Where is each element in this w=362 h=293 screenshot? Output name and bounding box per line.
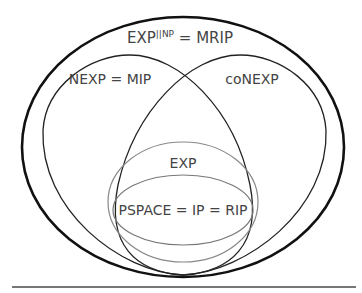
nexp-set-label: NEXP = MIP [69, 71, 152, 87]
pspace-set-label: PSPACE = IP = RIP [119, 202, 248, 218]
outer-set-label: EXP||NP = MRIP [127, 29, 233, 47]
horizontal-rule [12, 286, 356, 288]
conexp-set-label: coNEXP [225, 71, 279, 87]
exp-set-label: EXP [170, 155, 197, 171]
outer-set-boundary [22, 17, 344, 277]
